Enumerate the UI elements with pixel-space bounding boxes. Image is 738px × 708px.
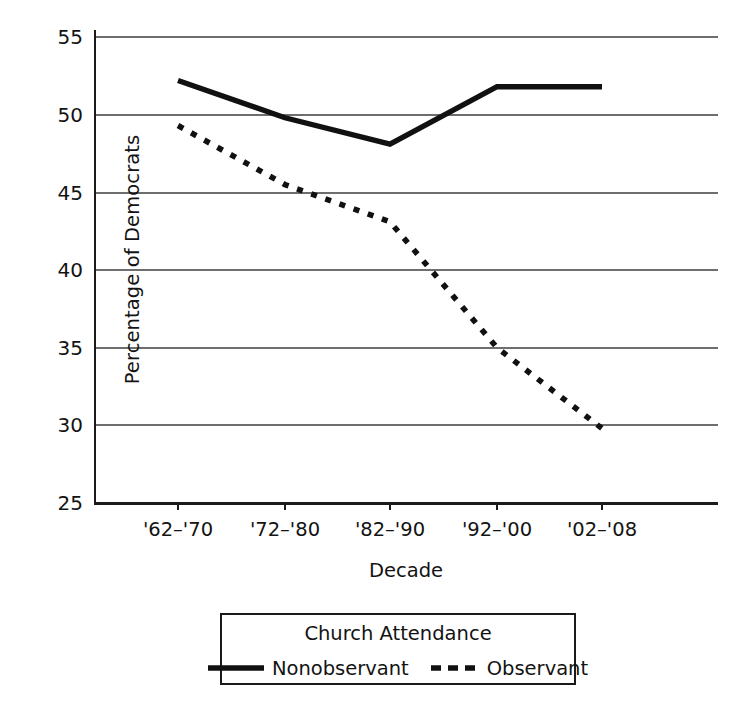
legend-swatch-dashed-icon — [431, 662, 479, 674]
y-tick-label-35: 35 — [58, 336, 83, 360]
y-tick-label-45: 45 — [58, 181, 83, 205]
legend-label-observant: Observant — [487, 657, 588, 680]
legend-entry-observant: Observant — [431, 657, 588, 680]
legend-swatch-solid-icon — [208, 662, 264, 674]
y-tick-label-55: 55 — [58, 25, 83, 49]
x-tick-label-0: '62–'70 — [143, 518, 213, 541]
legend-label-nonobservant: Nonobservant — [272, 657, 409, 680]
y-axis-title: Percentage of Democrats — [121, 50, 144, 470]
y-tick-label-40: 40 — [58, 258, 83, 282]
x-tick-label-2: '82–'90 — [355, 518, 425, 541]
x-tick-label-4: '02–'08 — [567, 518, 637, 541]
legend-title: Church Attendance — [222, 622, 574, 645]
series-line-observant — [178, 126, 602, 429]
x-tick-label-1: '72–'80 — [250, 518, 320, 541]
line-chart-figure: 55 50 45 40 35 30 25 Percentage of Democ… — [0, 0, 738, 708]
gridlines — [94, 37, 718, 503]
legend-entry-nonobservant: Nonobservant — [208, 657, 409, 680]
y-tick-label-30: 30 — [58, 413, 83, 437]
legend-entries: Nonobservant Observant — [222, 653, 574, 683]
plot-area: 55 50 45 40 35 30 25 Percentage of Democ… — [94, 30, 718, 510]
plot-canvas — [94, 30, 718, 510]
y-tick-label-25: 25 — [58, 491, 83, 515]
series-line-nonobservant — [178, 80, 602, 144]
legend-box: Church Attendance Nonobservant Observant — [220, 613, 576, 685]
y-tick-label-50: 50 — [58, 103, 83, 127]
x-tick-label-3: '92–'00 — [462, 518, 532, 541]
x-axis-title: Decade — [94, 559, 718, 582]
